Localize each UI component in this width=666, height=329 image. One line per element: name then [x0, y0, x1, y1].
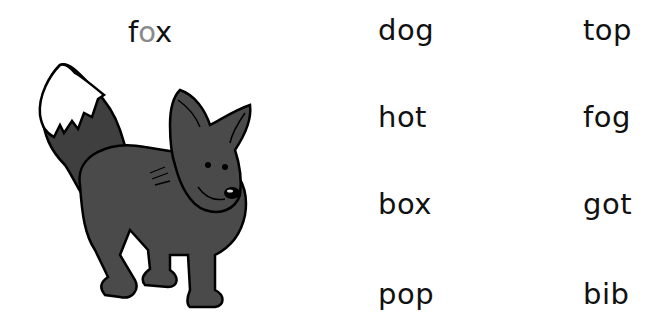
fox-eye-right: [222, 164, 228, 170]
fox-illustration: [20, 55, 290, 315]
target-word: fox: [128, 18, 172, 47]
word-top: top: [583, 16, 632, 45]
word-bib: bib: [583, 280, 629, 309]
target-word-suffix: x: [155, 15, 172, 49]
target-word-prefix: f: [128, 15, 138, 49]
word-hot: hot: [378, 103, 427, 132]
fox-eye-left: [205, 162, 211, 168]
word-got: got: [583, 190, 632, 219]
word-box: box: [378, 190, 432, 219]
fox-nose: [224, 187, 240, 199]
word-dog: dog: [378, 16, 434, 45]
word-fog: fog: [583, 103, 631, 132]
word-pop: pop: [378, 280, 434, 309]
target-word-vowel: o: [138, 15, 155, 49]
